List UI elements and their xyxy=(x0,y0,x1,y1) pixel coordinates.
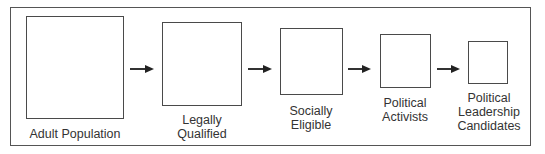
label-line: Adult Population xyxy=(29,127,120,141)
label-line: Legally xyxy=(177,113,226,127)
stage-box-political-activists xyxy=(380,34,431,88)
label-line: Candidates xyxy=(457,119,520,133)
stage-box-adult-population xyxy=(26,16,124,119)
label-line: Political xyxy=(457,91,520,105)
stage-label-adult-population: Adult Population xyxy=(29,127,120,141)
arrow-icon xyxy=(130,68,154,70)
stage-label-legally-qualified: Legally Qualified xyxy=(177,113,226,141)
label-line: Qualified xyxy=(177,127,226,141)
stage-label-political-leadership-candidates: Political Leadership Candidates xyxy=(457,91,520,133)
stage-box-socially-eligible xyxy=(280,28,343,95)
stage-box-political-leadership-candidates xyxy=(468,41,508,84)
label-line: Leadership xyxy=(457,105,520,119)
arrow-icon xyxy=(348,68,371,70)
label-line: Political xyxy=(382,96,428,110)
stage-box-legally-qualified xyxy=(162,22,242,106)
label-line: Eligible xyxy=(289,118,332,132)
stage-label-socially-eligible: Socially Eligible xyxy=(289,104,332,132)
label-line: Activists xyxy=(382,110,428,124)
arrow-icon xyxy=(248,68,272,70)
stage-label-political-activists: Political Activists xyxy=(382,96,428,124)
arrow-icon xyxy=(437,68,460,70)
label-line: Socially xyxy=(289,104,332,118)
